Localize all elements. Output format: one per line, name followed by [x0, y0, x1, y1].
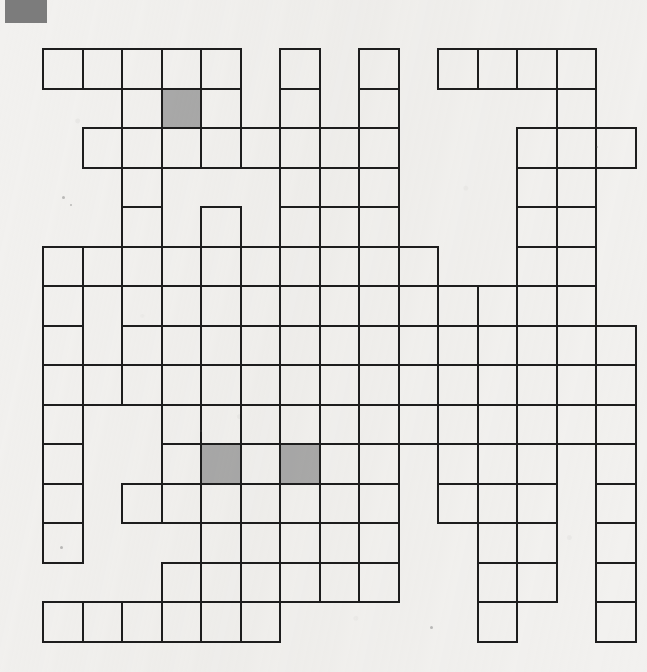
crossword-cell[interactable]: [516, 483, 558, 525]
crossword-cell[interactable]: [200, 601, 242, 643]
crossword-cell[interactable]: [240, 522, 282, 564]
crossword-cell[interactable]: [121, 88, 163, 130]
crossword-cell[interactable]: [319, 364, 361, 406]
crossword-cell[interactable]: [319, 562, 361, 604]
crossword-cell[interactable]: [279, 48, 321, 90]
crossword-cell[interactable]: [358, 483, 400, 525]
crossword-cell[interactable]: [516, 364, 558, 406]
crossword-cell[interactable]: [279, 167, 321, 209]
crossword-cell[interactable]: [358, 48, 400, 90]
crossword-cell[interactable]: [200, 562, 242, 604]
crossword-cell[interactable]: [42, 48, 84, 90]
crossword-cell[interactable]: [595, 522, 637, 564]
crossword-cell[interactable]: [358, 246, 400, 288]
crossword-cell[interactable]: [42, 601, 84, 643]
crossword-cell[interactable]: [556, 404, 598, 446]
crossword-cell[interactable]: [398, 246, 440, 288]
crossword-cell[interactable]: [200, 206, 242, 248]
crossword-cell[interactable]: [477, 601, 519, 643]
crossword-cell[interactable]: [358, 443, 400, 485]
crossword-cell[interactable]: [200, 127, 242, 169]
crossword-cell[interactable]: [161, 364, 203, 406]
crossword-cell[interactable]: [279, 88, 321, 130]
crossword-cell[interactable]: [398, 404, 440, 446]
crossword-cell[interactable]: [82, 364, 124, 406]
crossword-cell[interactable]: [161, 404, 203, 446]
crossword-cell[interactable]: [437, 483, 479, 525]
crossword-cell[interactable]: [516, 522, 558, 564]
crossword-cell[interactable]: [358, 167, 400, 209]
crossword-cell[interactable]: [121, 364, 163, 406]
crossword-cell[interactable]: [358, 88, 400, 130]
crossword-cell[interactable]: [437, 364, 479, 406]
crossword-cell[interactable]: [358, 562, 400, 604]
crossword-cell[interactable]: [161, 285, 203, 327]
crossword-cell[interactable]: [358, 325, 400, 367]
crossword-cell[interactable]: [240, 285, 282, 327]
crossword-cell[interactable]: [516, 167, 558, 209]
crossword-cell[interactable]: [437, 404, 479, 446]
crossword-cell[interactable]: [595, 404, 637, 446]
crossword-cell[interactable]: [121, 325, 163, 367]
crossword-cell[interactable]: [240, 562, 282, 604]
crossword-cell[interactable]: [279, 522, 321, 564]
crossword-cell[interactable]: [437, 325, 479, 367]
crossword-cell[interactable]: [200, 48, 242, 90]
crossword-cell[interactable]: [556, 285, 598, 327]
crossword-cell[interactable]: [161, 48, 203, 90]
crossword-cell[interactable]: [437, 285, 479, 327]
crossword-cell[interactable]: [279, 285, 321, 327]
crossword-cell[interactable]: [319, 443, 361, 485]
crossword-cell[interactable]: [82, 246, 124, 288]
crossword-cell[interactable]: [42, 364, 84, 406]
crossword-cell[interactable]: [358, 404, 400, 446]
crossword-cell[interactable]: [398, 285, 440, 327]
crossword-cell[interactable]: [437, 48, 479, 90]
crossword-cell[interactable]: [82, 127, 124, 169]
crossword-cell[interactable]: [595, 443, 637, 485]
crossword-cell[interactable]: [161, 601, 203, 643]
crossword-cell[interactable]: [200, 483, 242, 525]
crossword-cell[interactable]: [121, 127, 163, 169]
crossword-cell-shaded[interactable]: [279, 443, 321, 485]
crossword-cell[interactable]: [437, 443, 479, 485]
crossword-cell-shaded[interactable]: [200, 443, 242, 485]
crossword-cell[interactable]: [121, 246, 163, 288]
crossword-cell[interactable]: [556, 364, 598, 406]
crossword-cell[interactable]: [279, 206, 321, 248]
crossword-cell[interactable]: [477, 325, 519, 367]
crossword-cell[interactable]: [161, 246, 203, 288]
crossword-grid[interactable]: [0, 0, 647, 672]
crossword-cell[interactable]: [595, 601, 637, 643]
crossword-cell[interactable]: [200, 325, 242, 367]
crossword-cell[interactable]: [358, 285, 400, 327]
crossword-cell[interactable]: [477, 522, 519, 564]
crossword-cell[interactable]: [516, 285, 558, 327]
crossword-cell[interactable]: [121, 285, 163, 327]
crossword-cell[interactable]: [556, 325, 598, 367]
crossword-cell[interactable]: [556, 48, 598, 90]
crossword-cell[interactable]: [240, 601, 282, 643]
crossword-cell[interactable]: [595, 127, 637, 169]
crossword-cell[interactable]: [240, 246, 282, 288]
crossword-cell[interactable]: [516, 325, 558, 367]
crossword-cell[interactable]: [319, 483, 361, 525]
crossword-cell[interactable]: [240, 404, 282, 446]
crossword-cell[interactable]: [200, 522, 242, 564]
crossword-cell[interactable]: [82, 601, 124, 643]
crossword-cell[interactable]: [595, 483, 637, 525]
crossword-cell[interactable]: [516, 404, 558, 446]
crossword-cell[interactable]: [556, 167, 598, 209]
crossword-cell[interactable]: [358, 522, 400, 564]
crossword-cell[interactable]: [595, 325, 637, 367]
crossword-cell[interactable]: [358, 364, 400, 406]
crossword-cell[interactable]: [42, 443, 84, 485]
crossword-cell[interactable]: [556, 206, 598, 248]
crossword-cell[interactable]: [240, 364, 282, 406]
crossword-cell[interactable]: [516, 562, 558, 604]
crossword-cell[interactable]: [240, 483, 282, 525]
crossword-cell[interactable]: [595, 364, 637, 406]
crossword-cell[interactable]: [279, 483, 321, 525]
crossword-cell[interactable]: [516, 443, 558, 485]
crossword-cell[interactable]: [121, 483, 163, 525]
